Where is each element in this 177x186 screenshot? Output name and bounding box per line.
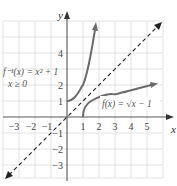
svg-text:2: 2 (58, 80, 63, 91)
y-axis-arrow-icon (64, 11, 70, 19)
function-inverse-graph: −3 −2 −1 1 2 3 4 5 4 2 1 −1 −2 −3 y x f⁻… (0, 0, 177, 186)
svg-text:−2: −2 (52, 144, 63, 155)
svg-text:1: 1 (58, 96, 63, 107)
y-axis-label: y (57, 9, 63, 21)
svg-text:4: 4 (129, 121, 134, 132)
x-tick-labels: −3 −2 −1 1 2 3 4 5 (9, 121, 150, 132)
svg-text:2: 2 (97, 121, 102, 132)
f-label: f(x) = √x − 1 (102, 99, 152, 110)
svg-text:−1: −1 (52, 128, 63, 139)
x-axis-label: x (170, 123, 176, 135)
svg-text:−3: −3 (52, 160, 63, 171)
f-inverse-label: f⁻¹(x) = x² + 1 (3, 67, 58, 78)
svg-text:1: 1 (81, 121, 86, 132)
f-inverse-curve (67, 30, 95, 101)
x-axis-arrow-icon (166, 114, 174, 120)
svg-text:−3: −3 (9, 121, 20, 132)
svg-text:3: 3 (113, 121, 118, 132)
f-inverse-arrow-icon (92, 22, 98, 31)
svg-text:−1: −1 (42, 121, 53, 132)
svg-text:5: 5 (145, 121, 150, 132)
svg-text:−2: −2 (26, 121, 37, 132)
f-inverse-domain-label: x ≥ 0 (7, 79, 27, 89)
svg-text:4: 4 (58, 48, 63, 59)
